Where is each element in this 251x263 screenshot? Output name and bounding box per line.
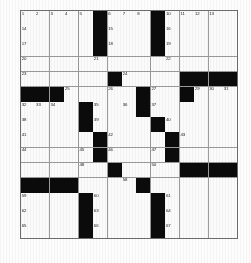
grid-cell[interactable]: 14 — [21, 26, 35, 41]
grid-cell[interactable] — [93, 163, 107, 178]
grid-cell[interactable] — [79, 132, 93, 147]
grid-cell[interactable]: 50 — [151, 163, 165, 178]
grid-cell[interactable] — [64, 26, 78, 41]
grid-cell[interactable] — [194, 57, 208, 72]
grid-cell[interactable] — [64, 117, 78, 132]
grid-cell[interactable]: 13 — [209, 11, 223, 26]
grid-cell[interactable] — [223, 57, 237, 72]
grid-cell[interactable] — [108, 193, 122, 208]
grid-cell[interactable] — [93, 87, 107, 102]
grid-cell[interactable]: 15 — [108, 26, 122, 41]
grid-cell[interactable] — [50, 193, 64, 208]
grid-cell[interactable] — [79, 72, 93, 87]
grid-cell[interactable]: 19 — [165, 41, 179, 56]
grid-cell[interactable] — [180, 208, 194, 223]
grid-cell[interactable] — [209, 193, 223, 208]
grid-cell[interactable] — [165, 87, 179, 102]
grid-cell[interactable] — [223, 208, 237, 223]
grid-cell[interactable] — [64, 193, 78, 208]
grid-cell[interactable] — [165, 163, 179, 178]
grid-cell[interactable] — [223, 193, 237, 208]
grid-cell[interactable]: 3 — [50, 11, 64, 26]
crossword-grid[interactable]: 1234567891011121314151617181920212223242… — [20, 10, 238, 239]
grid-cell[interactable] — [209, 223, 223, 238]
grid-cell[interactable] — [180, 57, 194, 72]
grid-cell[interactable] — [122, 163, 136, 178]
grid-cell[interactable] — [79, 178, 93, 193]
grid-cell[interactable] — [35, 72, 49, 87]
grid-cell[interactable]: 4 — [64, 11, 78, 26]
grid-cell[interactable] — [180, 26, 194, 41]
grid-cell[interactable] — [122, 132, 136, 147]
grid-cell[interactable] — [223, 11, 237, 26]
grid-cell[interactable]: 38 — [21, 117, 35, 132]
grid-cell[interactable]: 10 — [165, 11, 179, 26]
grid-cell[interactable] — [64, 148, 78, 163]
grid-cell[interactable] — [209, 117, 223, 132]
grid-cell[interactable] — [50, 148, 64, 163]
grid-cell[interactable] — [35, 117, 49, 132]
grid-cell[interactable] — [209, 148, 223, 163]
grid-cell[interactable] — [136, 223, 150, 238]
grid-cell[interactable] — [50, 72, 64, 87]
grid-cell[interactable]: 12 — [194, 11, 208, 26]
grid-cell[interactable] — [64, 57, 78, 72]
grid-cell[interactable] — [136, 41, 150, 56]
grid-cell[interactable] — [223, 41, 237, 56]
grid-cell[interactable]: 16 — [165, 26, 179, 41]
grid-cell[interactable] — [223, 178, 237, 193]
grid-cell[interactable] — [64, 223, 78, 238]
grid-cell[interactable]: 58 — [122, 178, 136, 193]
grid-cell[interactable]: 60 — [93, 193, 107, 208]
grid-cell[interactable]: 6 — [108, 11, 122, 26]
grid-cell[interactable] — [50, 41, 64, 56]
grid-cell[interactable] — [151, 178, 165, 193]
grid-cell[interactable]: 29 — [194, 87, 208, 102]
grid-cell[interactable]: 24 — [122, 72, 136, 87]
grid-cell[interactable]: 40 — [165, 117, 179, 132]
grid-cell[interactable] — [151, 57, 165, 72]
grid-cell[interactable]: 2 — [35, 11, 49, 26]
grid-cell[interactable] — [180, 148, 194, 163]
grid-cell[interactable] — [108, 178, 122, 193]
grid-cell[interactable]: 44 — [21, 148, 35, 163]
grid-cell[interactable] — [136, 57, 150, 72]
grid-cell[interactable]: 66 — [93, 223, 107, 238]
grid-cell[interactable]: 7 — [122, 11, 136, 26]
grid-cell[interactable] — [35, 26, 49, 41]
grid-cell[interactable] — [209, 178, 223, 193]
grid-cell[interactable] — [108, 117, 122, 132]
grid-cell[interactable]: 27 — [151, 87, 165, 102]
grid-cell[interactable] — [122, 41, 136, 56]
grid-cell[interactable] — [209, 57, 223, 72]
grid-cell[interactable] — [136, 193, 150, 208]
grid-cell[interactable]: 63 — [93, 208, 107, 223]
grid-cell[interactable]: 21 — [93, 57, 107, 72]
grid-cell[interactable] — [50, 26, 64, 41]
grid-cell[interactable] — [35, 208, 49, 223]
grid-cell[interactable] — [165, 178, 179, 193]
grid-cell[interactable] — [50, 117, 64, 132]
grid-cell[interactable] — [194, 193, 208, 208]
grid-cell[interactable] — [122, 57, 136, 72]
grid-cell[interactable] — [35, 41, 49, 56]
grid-cell[interactable]: 61 — [165, 193, 179, 208]
grid-cell[interactable] — [165, 102, 179, 117]
grid-cell[interactable] — [64, 132, 78, 147]
grid-cell[interactable] — [194, 117, 208, 132]
grid-cell[interactable] — [209, 208, 223, 223]
grid-cell[interactable] — [122, 148, 136, 163]
grid-cell[interactable] — [35, 163, 49, 178]
grid-cell[interactable] — [136, 163, 150, 178]
grid-cell[interactable] — [194, 26, 208, 41]
grid-cell[interactable]: 48 — [79, 163, 93, 178]
grid-cell[interactable] — [194, 148, 208, 163]
grid-cell[interactable] — [223, 117, 237, 132]
grid-cell[interactable] — [151, 72, 165, 87]
grid-cell[interactable]: 34 — [50, 102, 64, 117]
grid-cell[interactable] — [108, 208, 122, 223]
grid-cell[interactable] — [50, 132, 64, 147]
grid-cell[interactable] — [180, 117, 194, 132]
grid-cell[interactable] — [136, 72, 150, 87]
grid-cell[interactable] — [136, 117, 150, 132]
